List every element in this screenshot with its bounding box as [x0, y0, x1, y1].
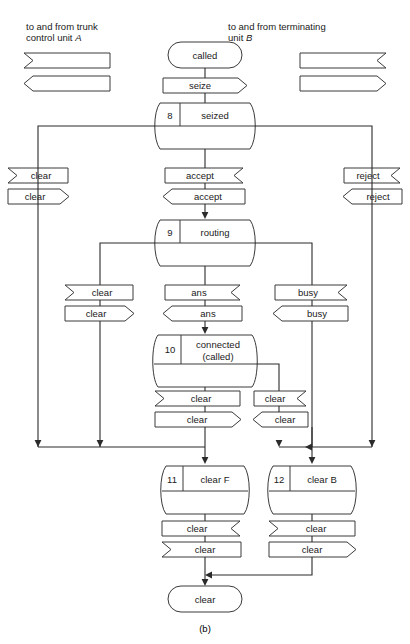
signal-clear-route-out-label: clear [92, 287, 113, 298]
signal-clear-conn-right-in-label: clear [275, 414, 296, 425]
state-8-name: seized [201, 110, 228, 121]
signal-clear-conn-right-out-label: clear [265, 393, 286, 404]
signal-clear-f-out-label: clear [187, 523, 208, 534]
legend-left-outgoing-shape [24, 76, 110, 91]
state-9-number: 9 [167, 227, 172, 238]
arrowhead-to-state12 [309, 457, 316, 464]
arrowhead-to-state11 [202, 457, 209, 464]
signal-ans-out-label: ans [191, 287, 207, 298]
note-left-line1: to and from trunk [26, 21, 98, 32]
figure-caption: (b) [199, 623, 211, 634]
arrowhead-to-routing [202, 212, 209, 219]
state-10-name-line1: connected [196, 339, 240, 350]
legend-left-incoming-shape [24, 53, 110, 68]
edge-seized-to-left-bus [38, 126, 156, 166]
note-left-line2-text: control unit [26, 32, 75, 43]
signal-accept-in-label: accept [194, 191, 222, 202]
legend-right-outgoing-shape [300, 76, 386, 91]
signal-clear-conn-left-in-label: clear [187, 414, 208, 425]
signal-busy-out-label: busy [298, 287, 318, 298]
terminal-clear-label: clear [195, 594, 216, 605]
arrowhead-merge-right-inbound [305, 444, 312, 451]
signal-clear-a-out-label: clear [25, 191, 46, 202]
edge-seized-to-right-bus [254, 126, 372, 166]
arrowhead-left-bus-merge [35, 440, 42, 447]
state-9-name: routing [200, 227, 229, 238]
signal-clear-f-in-label: clear [195, 544, 216, 555]
signal-busy-in-label: busy [307, 308, 327, 319]
state-8-number: 8 [167, 110, 172, 121]
arrowhead-clear-b-join [205, 572, 212, 579]
signal-clear-a-in-label: clear [31, 170, 52, 181]
arrowhead-clear-route-merge [97, 440, 104, 447]
state-10-name-line2: (called) [202, 351, 233, 362]
signal-clear-route-in-label: clear [86, 308, 107, 319]
note-right-line1: to and from terminating [228, 21, 326, 32]
note-right-unit-b: B [246, 32, 253, 43]
state-12-name: clear B [307, 474, 337, 485]
note-left-unit-a: A [74, 32, 81, 43]
terminal-called-label: called [193, 50, 218, 61]
edge-connected-to-right-clear [256, 364, 279, 391]
signal-clear-conn-left-out-label: clear [191, 393, 212, 404]
legend-right-incoming-shape [300, 53, 386, 68]
edge-routing-to-clear-branch [100, 243, 156, 285]
note-right-line2-text: unit [228, 32, 246, 43]
arrowhead-clear-conn-right-merge [276, 440, 283, 447]
signal-reject-in-label: reject [366, 191, 390, 202]
signal-clear-b-out-label: clear [306, 523, 327, 534]
arrowhead-right-bus-merge [369, 440, 376, 447]
state-10-number: 10 [165, 344, 176, 355]
arrowhead-to-terminal-clear [202, 579, 209, 586]
note-right-line2: unit B [228, 32, 253, 43]
call-state-flow-diagram: to and from trunk control unit A to and … [0, 0, 410, 644]
state-12-number: 12 [274, 474, 285, 485]
signal-reject-out-label: reject [356, 170, 380, 181]
state-11-name: clear F [200, 474, 229, 485]
edge-routing-to-busy-branch [254, 243, 312, 285]
note-left-line2: control unit A [26, 32, 81, 43]
state-11-number: 11 [167, 474, 177, 485]
signal-accept-out-label: accept [186, 170, 214, 181]
signal-clear-b-in-label: clear [302, 544, 323, 555]
signal-seize-label: seize [189, 80, 211, 91]
edge-clear-b-to-terminal [212, 557, 312, 575]
arrowhead-to-connected [202, 327, 209, 334]
signal-ans-in-label: ans [200, 308, 216, 319]
